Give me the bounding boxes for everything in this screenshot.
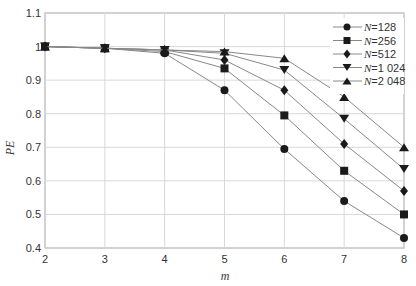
legend: N=128N=256N=512N=1 024N=2 048 [330,18,405,94]
y-tick-label: 0.7 [26,141,41,153]
y-tick-label: 0.5 [26,208,41,220]
x-tick-label: 4 [162,253,168,265]
circle-marker [221,86,229,94]
triangle-down-marker [399,165,409,173]
x-axis-label: m [221,269,230,283]
legend-label: N=512 [363,48,396,60]
y-axis-label: PE [3,140,17,156]
x-tick-label: 8 [401,253,407,265]
legend-label: N=1 024 [363,62,405,74]
legend-label: N=2 048 [363,75,405,87]
x-tick-label: 5 [221,253,227,265]
y-tick-label: 0.9 [26,74,41,86]
circle-marker [340,197,348,205]
y-tick-label: 0.4 [26,242,41,254]
square-marker [340,167,348,175]
circle-marker [400,234,408,242]
x-tick-label: 3 [102,253,108,265]
diamond-marker [400,186,408,196]
line-chart: 23456780.40.50.60.70.80.911.1 m PE N=128… [0,0,416,286]
y-tick-label: 1 [35,41,41,53]
legend-label: N=128 [363,21,396,33]
x-tick-label: 2 [42,253,48,265]
diamond-marker [280,85,288,95]
circle-marker [344,24,351,31]
square-marker [221,64,229,72]
x-tick-label: 6 [281,253,287,265]
y-tick-label: 0.8 [26,108,41,120]
square-marker [280,111,288,119]
square-marker [344,37,351,44]
y-tick-label: 0.6 [26,175,41,187]
x-tick-label: 7 [341,253,347,265]
y-tick-label: 1.1 [26,7,41,19]
circle-marker [280,145,288,153]
legend-label: N=256 [363,35,396,47]
square-marker [400,210,408,218]
